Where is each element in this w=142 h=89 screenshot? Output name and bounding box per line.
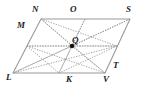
- label-point-v: V: [103, 75, 109, 84]
- segment-q-s: [72, 19, 130, 46]
- geometry-figure: N O S M Q T L K V: [0, 0, 142, 89]
- segment-n-t: [41, 19, 117, 46]
- label-point-m: M: [17, 21, 25, 30]
- label-point-n: N: [32, 5, 39, 14]
- label-point-s: S: [126, 5, 131, 14]
- label-point-l: L: [6, 73, 12, 82]
- label-point-o: O: [70, 5, 77, 14]
- segment-k-t: [59, 46, 117, 73]
- label-point-k: K: [66, 75, 72, 84]
- segment-m-k: [27, 46, 59, 73]
- segment-q-n: [41, 19, 72, 46]
- label-point-t: T: [113, 61, 119, 70]
- label-point-q: Q: [72, 36, 79, 45]
- segment-l-t: [13, 46, 117, 73]
